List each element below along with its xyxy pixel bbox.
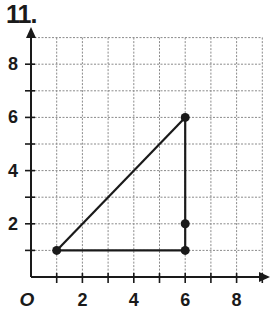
- x-tick-label: 8: [232, 290, 242, 310]
- data-point: [181, 113, 190, 122]
- y-axis-arrow-icon: [26, 27, 36, 38]
- data-point: [52, 246, 61, 255]
- coordinate-plane: 24682468O: [0, 0, 273, 320]
- data-point: [181, 246, 190, 255]
- x-tick-label: 6: [180, 290, 190, 310]
- y-tick-label: 4: [8, 161, 18, 181]
- x-tick-label: 2: [77, 290, 87, 310]
- data-point: [181, 219, 190, 228]
- y-tick-label: 8: [8, 54, 18, 74]
- triangle-side: [57, 117, 186, 250]
- x-tick-label: 4: [129, 290, 139, 310]
- origin-label: O: [20, 289, 35, 310]
- y-tick-label: 2: [8, 214, 18, 234]
- y-tick-label: 6: [8, 107, 18, 127]
- x-axis-arrow-icon: [259, 272, 270, 282]
